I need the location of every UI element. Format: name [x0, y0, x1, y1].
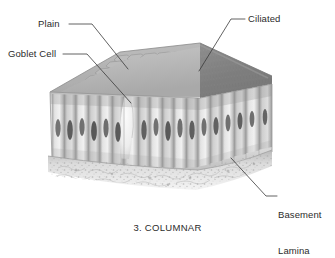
plain-surface-region: [50, 43, 207, 97]
label-goblet-cell: Goblet Cell: [8, 48, 56, 59]
label-plain: Plain: [38, 18, 60, 29]
label-basement-lamina-line2: Lamina: [278, 245, 322, 257]
label-basement-lamina-line1: Basement: [278, 209, 322, 221]
figure-caption: 3. COLUMNAR: [0, 222, 335, 233]
label-ciliated: Ciliated: [248, 13, 280, 24]
